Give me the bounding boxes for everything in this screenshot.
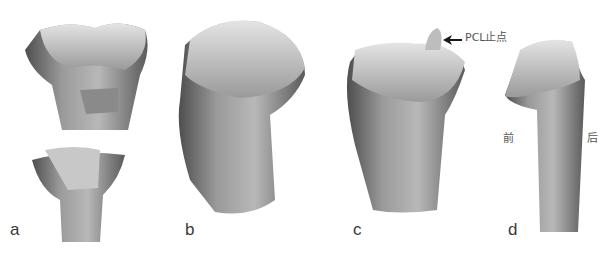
panel-label-c: c [353,220,362,240]
panel-a-lower-bone [32,147,125,242]
panel-c-bone [347,28,465,213]
pcl-insertion-annotation: PCL止点 [465,28,507,44]
panel-label-a: a [10,220,19,240]
panel-a-upper-bone [25,23,148,130]
anterior-label: 前 [503,129,514,145]
posterior-label: 后 [587,129,598,145]
panel-d-bone [505,40,585,232]
panel-label-d: d [508,220,517,240]
panel-label-b: b [185,220,194,240]
panel-b-bone [179,20,305,213]
pcl-arrow-icon [443,35,462,45]
bone-reconstruction-figure [0,0,608,254]
